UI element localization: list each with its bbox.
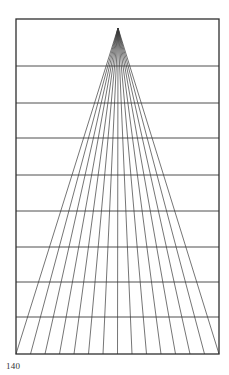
page-number: 140 (6, 361, 20, 371)
fan-line (16, 28, 118, 354)
fan-line (31, 28, 119, 354)
fan-line (45, 28, 118, 354)
fan-line (118, 28, 147, 354)
fan-line (118, 28, 132, 354)
fan-line (118, 28, 161, 354)
fan-line (118, 28, 219, 354)
fan-line (74, 28, 118, 354)
fan-line (118, 28, 176, 354)
fan-line (89, 28, 119, 354)
converging-fan-lines (16, 28, 219, 354)
fan-line (118, 28, 190, 354)
fan-line (118, 28, 119, 354)
perspective-diagram (0, 0, 229, 375)
fan-line (118, 28, 205, 354)
fan-line (103, 28, 118, 354)
fan-line (60, 28, 119, 354)
